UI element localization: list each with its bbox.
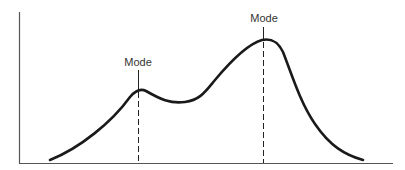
- bimodal-diagram: Mode Mode: [0, 0, 405, 170]
- mode-label-left: Mode: [124, 56, 152, 68]
- distribution-curve: [50, 40, 363, 161]
- mode-label-right: Mode: [250, 12, 278, 24]
